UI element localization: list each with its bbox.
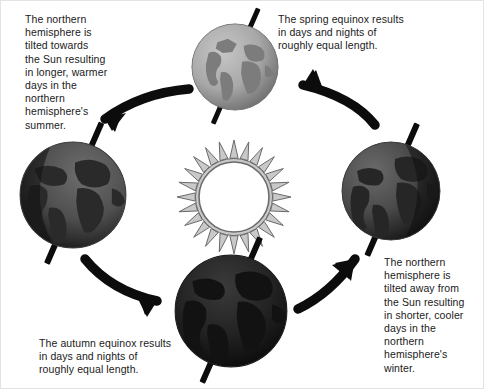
sun-ray	[270, 182, 289, 191]
arrow-left-to-bottom	[85, 259, 157, 317]
globe-left-sphere	[19, 141, 127, 249]
sun-ray	[219, 233, 228, 252]
caption-winter: The northern hemisphere is tilted away f…	[384, 256, 484, 375]
caption-summer: The northern hemisphere is tilted toward…	[25, 13, 145, 132]
globe-right-sphere	[341, 141, 441, 241]
caption-autumn: The autumn equinox results in days and n…	[39, 337, 239, 377]
sun-ray	[230, 236, 238, 254]
arrow-right-to-top	[303, 69, 375, 125]
sun-disc	[199, 162, 269, 232]
globe-top-sphere	[191, 23, 279, 111]
sun-ray	[179, 203, 198, 212]
globe-right	[341, 141, 441, 241]
sun-ray	[240, 142, 249, 161]
globe-top	[191, 23, 279, 111]
caption-spring: The spring equinox results in days and n…	[278, 13, 458, 53]
sun-ray	[219, 142, 228, 161]
sun-ray	[177, 193, 195, 201]
sun-ray	[270, 203, 289, 212]
sun-ray	[273, 193, 291, 201]
globe-left	[19, 141, 127, 249]
sun-ray	[230, 140, 238, 158]
seasons-diagram: The northern hemisphere is tilted toward…	[0, 0, 484, 389]
sun-ray	[179, 182, 198, 191]
sun-ray	[240, 233, 249, 252]
